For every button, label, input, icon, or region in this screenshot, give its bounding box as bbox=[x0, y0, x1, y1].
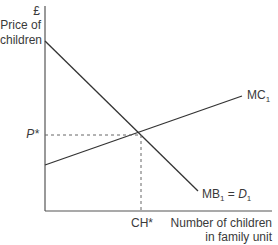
demand-curve-mb1-d1 bbox=[45, 41, 198, 191]
mb1-text: MB bbox=[202, 187, 220, 201]
x-axis-label-line2: in family unit bbox=[170, 230, 272, 244]
ch-star-label: CH* bbox=[131, 216, 153, 230]
marginal-cost-curve-mc1 bbox=[45, 96, 242, 165]
y-axis-label-line2: children bbox=[0, 33, 41, 47]
mb1-d1-label: MB1 = D1 bbox=[202, 187, 251, 206]
d1-subscript: 1 bbox=[247, 194, 251, 203]
equals-sign: = bbox=[224, 187, 238, 201]
p-star-label: P* bbox=[18, 127, 39, 141]
d1-text: D bbox=[238, 187, 247, 201]
mc1-subscript: 1 bbox=[266, 95, 270, 104]
currency-label: £ bbox=[20, 4, 40, 18]
mc1-text: MC bbox=[247, 88, 266, 102]
mc1-label: MC1 bbox=[247, 88, 270, 107]
y-axis-label-line1: Price of bbox=[0, 18, 41, 32]
x-axis-label-line1: Number of children bbox=[170, 216, 272, 230]
